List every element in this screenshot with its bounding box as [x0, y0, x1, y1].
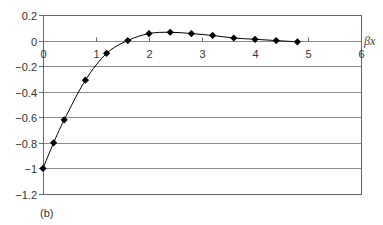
diamond-marker [209, 32, 216, 39]
plot-frame [44, 16, 362, 195]
diamond-marker [230, 34, 237, 41]
y-tick-label: −0.6 [15, 112, 37, 124]
x-tick-label: 5 [305, 48, 311, 60]
x-axis-label: βx [363, 34, 376, 48]
diamond-marker [294, 38, 301, 45]
y-axis: 0.20−0.2−0.4−0.6−0.8−1−1.2 [15, 10, 43, 201]
x-tick-label: 0 [40, 48, 46, 60]
diamond-marker [273, 37, 280, 44]
y-tick-label: −0.2 [15, 61, 37, 73]
y-tick-label: 0 [31, 36, 37, 48]
y-tick-label: −0.8 [15, 138, 37, 150]
data-series [39, 29, 301, 172]
series-line [43, 32, 297, 168]
diamond-marker [39, 165, 46, 172]
diamond-marker [145, 30, 152, 37]
x-tick-label: 6 [358, 48, 364, 60]
diamond-marker [188, 30, 195, 37]
gridlines [43, 16, 361, 195]
x-axis: 0123456 [40, 38, 364, 60]
y-tick-label: −0.4 [15, 87, 37, 99]
diamond-marker [124, 37, 131, 44]
diamond-marker [50, 139, 57, 146]
diamond-marker [167, 29, 174, 36]
x-tick-label: 1 [93, 48, 99, 60]
figure-caption: (b) [40, 207, 53, 219]
plot-border [44, 16, 362, 195]
y-tick-label: 0.2 [22, 10, 37, 22]
x-tick-label: 4 [252, 48, 258, 60]
x-tick-label: 3 [199, 48, 205, 60]
x-tick-label: 2 [146, 48, 152, 60]
y-tick-label: −1 [24, 163, 37, 175]
diamond-marker [82, 77, 89, 84]
y-tick-label: −1.2 [15, 189, 37, 201]
line-chart: 0.20−0.2−0.4−0.6−0.8−1−1.2 0123456 βx (b… [0, 0, 383, 225]
